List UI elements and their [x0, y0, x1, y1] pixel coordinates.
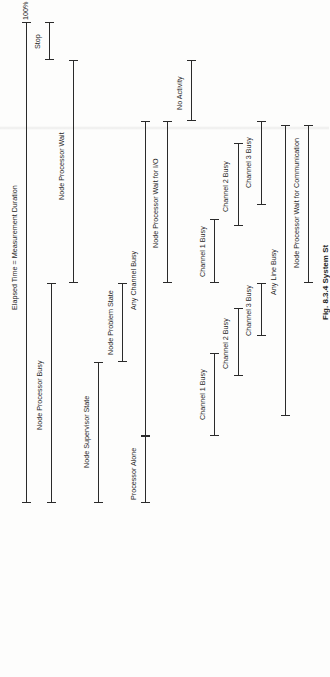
bar-channel-1-busy-a — [214, 219, 215, 283]
label-channel-2-busy-a: Channel 2 Busy — [222, 161, 230, 212]
bar-node-processor-wait-io — [167, 121, 168, 283]
label-channel-3-busy-a: Channel 3 Busy — [245, 137, 253, 188]
scan-smudge — [0, 126, 329, 130]
bar-end-tick — [69, 282, 78, 283]
bar-end-tick — [257, 204, 266, 205]
label-node-processor-wait-io: Node Processor Wait for I/O — [152, 158, 160, 248]
bar-node-processor-busy — [51, 283, 52, 503]
label-any-line-busy: Any Line Busy — [270, 249, 278, 295]
bar-channel-3-busy-a — [261, 121, 262, 205]
bar-end-tick — [304, 282, 313, 283]
bar-end-tick — [94, 502, 103, 503]
bar-end-tick — [304, 125, 313, 126]
bar-channel-3-busy-b — [261, 283, 262, 336]
bar-end-tick — [141, 502, 150, 503]
bar-end-tick — [45, 22, 54, 23]
bar-end-tick — [281, 415, 290, 416]
bar-end-tick — [47, 283, 56, 284]
bar-end-tick — [257, 121, 266, 122]
bar-channel-2-busy-a — [238, 143, 239, 226]
bar-channel-2-busy-b — [238, 308, 239, 376]
label-channel-1-busy-a: Channel 1 Busy — [199, 226, 207, 277]
bar-end-tick — [210, 282, 219, 283]
bar-end-tick — [210, 435, 219, 436]
bar-end-tick — [22, 22, 31, 23]
bar-end-tick — [234, 375, 243, 376]
bar-end-tick — [187, 60, 196, 61]
label-channel-2-busy-b: Channel 2 Busy — [222, 318, 230, 369]
bar-end-tick — [257, 283, 266, 284]
label-any-channel-busy: Any Channel Busy — [130, 251, 138, 310]
bar-node-problem-state — [122, 283, 123, 362]
label-node-processor-busy: Node Processor Busy — [36, 360, 44, 430]
label-node-processor-wait-comm: Node Processor Wait for Communication — [293, 138, 301, 268]
label-node-processor-wait: Node Processor Wait — [58, 132, 66, 200]
bar-stop — [49, 22, 50, 60]
label-no-activity: No Activity — [176, 76, 184, 110]
label-elapsed: Elapsed Time = Measurement Duration — [11, 185, 19, 310]
figure-caption: Fig. 8.3.4 System St — [322, 245, 330, 320]
bar-node-processor-wait — [73, 60, 74, 283]
bar-any-line-busy — [285, 125, 286, 416]
bar-end-tick — [141, 436, 150, 437]
label-processor-alone: Processor Alone — [130, 448, 138, 500]
label-node-problem-state: Node Problem State — [107, 290, 115, 355]
bar-end-tick — [141, 121, 150, 122]
bar-end-tick — [163, 282, 172, 283]
top-marker-100-percent: 100% — [22, 2, 30, 20]
bar-elapsed — [26, 22, 27, 503]
bar-no-activity — [191, 60, 192, 121]
bar-end-tick — [94, 362, 103, 363]
bar-end-tick — [69, 60, 78, 61]
bar-end-tick — [210, 353, 219, 354]
bar-end-tick — [234, 308, 243, 309]
bar-end-tick — [22, 502, 31, 503]
bar-processor-alone — [145, 436, 146, 503]
bar-end-tick — [210, 219, 219, 220]
label-channel-1-busy-b: Channel 1 Busy — [199, 369, 207, 420]
bar-end-tick — [187, 120, 196, 121]
bar-node-processor-wait-comm — [308, 125, 309, 283]
bar-end-tick — [234, 225, 243, 226]
bar-end-tick — [257, 335, 266, 336]
label-stop: Stop — [34, 34, 42, 49]
bar-end-tick — [163, 121, 172, 122]
bar-end-tick — [118, 283, 127, 284]
bar-any-channel-busy — [145, 121, 146, 436]
label-node-supervisor-state: Node Supervisor State — [83, 396, 91, 468]
bar-end-tick — [47, 502, 56, 503]
bar-node-supervisor-state — [98, 362, 99, 503]
bar-end-tick — [281, 125, 290, 126]
bar-end-tick — [234, 143, 243, 144]
bar-channel-1-busy-b — [214, 353, 215, 436]
label-channel-3-busy-b: Channel 3 Busy — [245, 285, 253, 336]
bar-end-tick — [118, 361, 127, 362]
bar-end-tick — [45, 59, 54, 60]
